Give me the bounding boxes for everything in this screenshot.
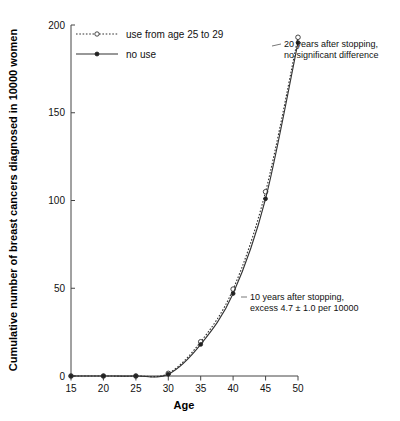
x-tick-label-50: 50 <box>292 383 304 394</box>
series-layer <box>69 35 301 378</box>
y-tick-label-0: 0 <box>59 371 65 382</box>
series-line-1 <box>71 43 298 378</box>
legend-marker-filled-circle <box>95 52 99 56</box>
annotation-20-years-line1: 20 years after stopping, <box>284 39 378 49</box>
data-point-filled-20 <box>102 374 106 378</box>
series-no-use <box>69 41 300 378</box>
data-point-filled-35 <box>199 343 203 347</box>
data-point-filled-40 <box>231 292 235 296</box>
legend-label-1: no use <box>126 49 156 60</box>
x-tick-label-25: 25 <box>130 383 142 394</box>
y-tick-label-50: 50 <box>54 283 66 294</box>
annotation-20-years-line2: no significant difference <box>284 50 378 60</box>
legend-item-no-use[interactable]: no use <box>76 49 156 60</box>
x-tick-label-40: 40 <box>228 383 240 394</box>
chart-figure: 0 50 100 150 200 15 20 25 30 35 40 45 50… <box>0 0 400 421</box>
leader-line-20-years <box>272 44 281 46</box>
chart-legend: use from age 25 to 29 no use <box>76 29 224 60</box>
y-axis-title: Cumulative number of breast cancers diag… <box>7 29 19 372</box>
data-point-filled-15 <box>69 374 73 378</box>
data-point-filled-30 <box>166 372 170 376</box>
x-tick-label-35: 35 <box>195 383 207 394</box>
x-tick-label-30: 30 <box>163 383 175 394</box>
y-tick-label-150: 150 <box>48 107 65 118</box>
annotation-10-years-line1: 10 years after stopping, <box>250 292 344 302</box>
annotation-10-years: 10 years after stopping, excess 4.7 ± 1.… <box>250 292 359 313</box>
x-tick-label-20: 20 <box>98 383 110 394</box>
data-point-filled-25 <box>134 374 138 378</box>
legend-item-use-from-age-25-to-29[interactable]: use from age 25 to 29 <box>76 29 224 40</box>
annotation-20-years: 20 years after stopping, no significant … <box>284 39 378 60</box>
legend-marker-open-circle <box>95 32 99 36</box>
breast-cancer-cumulative-incidence-chart: 0 50 100 150 200 15 20 25 30 35 40 45 50… <box>0 0 400 421</box>
annotation-10-years-line2: excess 4.7 ± 1.0 per 10000 <box>250 303 359 313</box>
series-use-from-age-25-to-29 <box>69 35 301 378</box>
x-tick-label-15: 15 <box>65 383 77 394</box>
y-tick-label-200: 200 <box>48 20 65 31</box>
y-axis-ticks <box>71 25 75 376</box>
x-tick-label-45: 45 <box>260 383 272 394</box>
y-tick-label-100: 100 <box>48 195 65 206</box>
legend-label-0: use from age 25 to 29 <box>126 29 224 40</box>
x-axis-title: Age <box>174 399 195 411</box>
data-point-filled-45 <box>264 197 268 201</box>
